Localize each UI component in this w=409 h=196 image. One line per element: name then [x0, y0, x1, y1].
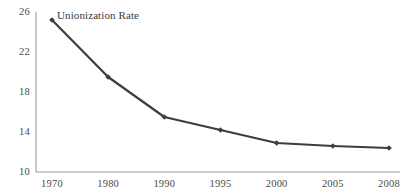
- chart-plot-area: [0, 0, 409, 196]
- y-axis-tick-label: 22: [19, 47, 30, 58]
- data-point-marker: [330, 143, 336, 149]
- x-axis-tick-label: 1990: [144, 179, 184, 190]
- series-annotation-label: Unionization Rate: [57, 10, 139, 21]
- x-axis-tick-label: 2005: [313, 179, 353, 190]
- axis-lines: [36, 12, 400, 172]
- y-axis-tick-label: 18: [19, 87, 30, 98]
- data-point-marker: [386, 145, 392, 151]
- x-axis-tick-label: 1970: [32, 179, 72, 190]
- series-markers: [49, 17, 392, 151]
- y-axis-tick-label: 14: [19, 127, 30, 138]
- data-point-marker: [274, 140, 280, 146]
- x-axis-tick-label: 2008: [369, 179, 409, 190]
- y-axis-tick-label: 26: [19, 7, 30, 18]
- y-axis-tick-label: 10: [19, 167, 30, 178]
- data-point-marker: [218, 127, 224, 133]
- x-axis-tick-label: 1995: [201, 179, 241, 190]
- x-axis-tick-label: 2000: [257, 179, 297, 190]
- x-axis-tick-label: 1980: [88, 179, 128, 190]
- unionization-rate-chart: 1014182226 1970198019901995200020052008 …: [0, 0, 409, 196]
